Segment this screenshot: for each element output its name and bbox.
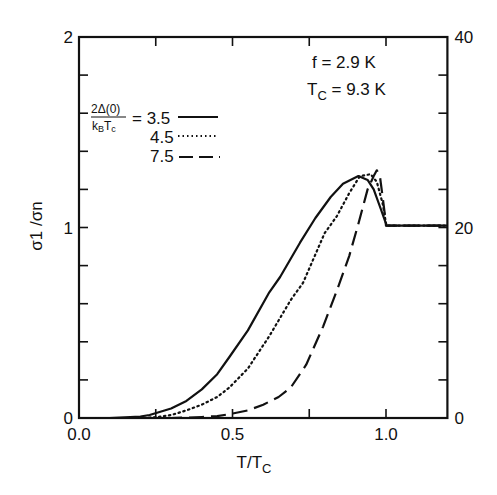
plot-frame xyxy=(79,37,447,418)
y2-tick-label: 40 xyxy=(454,28,473,47)
data-series xyxy=(79,170,447,418)
x-axis-label-text: T/TC xyxy=(237,453,272,476)
x-tick-label: 0.5 xyxy=(221,425,245,444)
series-line-dotted xyxy=(79,174,447,418)
tc-annotation: TC = 9.3 K xyxy=(307,80,387,103)
axis-ticks: 0.00.51.001202040 xyxy=(64,28,474,444)
legend: 2Δ(0) kBTc = 3.5 4.5 7.5 xyxy=(91,102,220,166)
x-tick-label: 1.0 xyxy=(374,425,398,444)
y2-tick-label: 0 xyxy=(454,409,463,428)
y-axis-label-text: σ1 /σn xyxy=(27,201,46,250)
y-tick-label: 1 xyxy=(64,219,73,238)
y2-tick-label: 20 xyxy=(454,219,473,238)
y-tick-label: 0 xyxy=(64,409,73,428)
legend-title-denominator: kBTc xyxy=(92,119,116,134)
series-line-dashed xyxy=(79,170,447,418)
frequency-annotation: f = 2.9 K xyxy=(312,53,376,72)
legend-title-numerator: 2Δ(0) xyxy=(91,102,120,116)
y-axis-label: σ1 /σn xyxy=(27,201,46,250)
plot-axes xyxy=(79,37,447,418)
parameter-annotation: f = 2.9 K TC = 9.3 K xyxy=(307,53,387,103)
conductivity-chart: 0.00.51.001202040 σ1 /σn T/TC f = 2.9 K … xyxy=(0,0,497,495)
y-tick-label: 2 xyxy=(64,28,73,47)
legend-entry-label-4-5: 4.5 xyxy=(150,128,174,147)
series-line-solid xyxy=(79,176,447,418)
legend-entry-label-7-5: 7.5 xyxy=(150,147,174,166)
x-axis-label: T/TC xyxy=(237,453,272,476)
legend-entry-label-3-5: = 3.5 xyxy=(132,109,170,128)
